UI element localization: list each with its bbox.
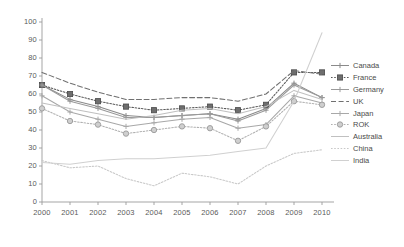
legend-item-germany[interactable]: Germany xyxy=(330,84,384,96)
data-point-marker xyxy=(67,118,72,123)
legend-swatch-australia-icon xyxy=(330,131,350,142)
x-tick-2001: 2001 xyxy=(56,208,84,217)
legend-item-china[interactable]: China xyxy=(330,143,384,155)
y-tick-90: 90 xyxy=(8,35,37,44)
legend-label: Australia xyxy=(353,131,382,142)
x-tick-2006: 2006 xyxy=(196,208,224,217)
data-point-marker xyxy=(235,108,240,113)
data-point-marker xyxy=(337,63,342,68)
legend-label: India xyxy=(353,155,369,166)
data-point-marker xyxy=(337,122,342,127)
data-point-marker xyxy=(151,127,156,132)
data-point-marker xyxy=(95,122,100,127)
data-point-marker xyxy=(207,115,212,120)
x-tick-2003: 2003 xyxy=(112,208,140,217)
data-point-marker xyxy=(207,126,212,131)
data-point-marker xyxy=(263,124,268,129)
x-tick-2000: 2000 xyxy=(28,208,56,217)
x-tick-2010: 2010 xyxy=(308,208,336,217)
series-china xyxy=(42,150,322,186)
y-tick-50: 50 xyxy=(8,107,37,116)
series-uk xyxy=(42,71,322,102)
data-point-marker xyxy=(123,124,128,129)
y-tick-0: 0 xyxy=(8,197,37,206)
y-tick-10: 10 xyxy=(8,179,37,188)
data-point-marker xyxy=(67,109,72,114)
data-point-marker xyxy=(235,126,240,131)
data-point-marker xyxy=(39,106,44,111)
data-point-marker xyxy=(235,138,240,143)
line-chart: 0102030405060708090100 20002001200220032… xyxy=(0,0,404,247)
y-tick-80: 80 xyxy=(8,53,37,62)
x-tick-2009: 2009 xyxy=(280,208,308,217)
data-point-marker xyxy=(95,99,100,104)
legend-swatch-china-icon xyxy=(330,143,350,154)
data-point-marker xyxy=(123,131,128,136)
legend-label: France xyxy=(353,72,376,83)
series-france xyxy=(39,70,324,113)
x-tick-2008: 2008 xyxy=(252,208,280,217)
x-tick-2005: 2005 xyxy=(168,208,196,217)
legend-label: UK xyxy=(353,96,363,107)
data-point-marker xyxy=(95,117,100,122)
y-tick-100: 100 xyxy=(8,17,37,26)
chart-legend: CanadaFranceGermanyUKJapanROKAustraliaCh… xyxy=(330,60,384,166)
data-point-marker xyxy=(123,104,128,109)
data-point-marker xyxy=(151,108,156,113)
legend-label: Canada xyxy=(353,60,379,71)
data-point-marker xyxy=(319,102,324,107)
data-point-marker xyxy=(179,124,184,129)
y-tick-70: 70 xyxy=(8,71,37,80)
data-point-marker xyxy=(67,91,72,96)
legend-swatch-canada-icon xyxy=(330,60,350,71)
legend-item-australia[interactable]: Australia xyxy=(330,131,384,143)
legend-item-japan[interactable]: Japan xyxy=(330,107,384,119)
legend-swatch-japan-icon xyxy=(330,108,350,119)
data-point-marker xyxy=(337,75,342,80)
legend-swatch-france-icon xyxy=(330,72,350,83)
data-point-marker xyxy=(151,120,156,125)
y-tick-30: 30 xyxy=(8,143,37,152)
legend-swatch-uk-icon xyxy=(330,96,350,107)
data-point-marker xyxy=(337,110,342,115)
x-tick-2002: 2002 xyxy=(84,208,112,217)
x-tick-2007: 2007 xyxy=(224,208,252,217)
legend-item-uk[interactable]: UK xyxy=(330,95,384,107)
legend-label: China xyxy=(353,143,373,154)
legend-item-canada[interactable]: Canada xyxy=(330,60,384,72)
legend-label: Germany xyxy=(353,84,384,95)
legend-swatch-germany-icon xyxy=(330,84,350,95)
data-point-marker xyxy=(337,87,342,92)
legend-item-india[interactable]: India xyxy=(330,154,384,166)
y-tick-20: 20 xyxy=(8,161,37,170)
legend-item-france[interactable]: France xyxy=(330,72,384,84)
legend-label: ROK xyxy=(353,119,369,130)
legend-item-rok[interactable]: ROK xyxy=(330,119,384,131)
legend-label: Japan xyxy=(353,108,373,119)
legend-swatch-rok-icon xyxy=(330,119,350,130)
legend-swatch-india-icon xyxy=(330,155,350,166)
y-tick-40: 40 xyxy=(8,125,37,134)
y-tick-60: 60 xyxy=(8,89,37,98)
data-point-marker xyxy=(179,117,184,122)
x-tick-2004: 2004 xyxy=(140,208,168,217)
